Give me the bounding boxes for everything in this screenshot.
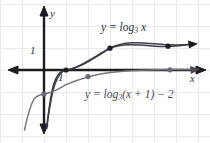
curve-point-parent [165,44,170,49]
curve-parent-log3x [47,40,198,128]
y-axis-label: y [50,8,55,19]
curve-label-transformed-eq: = log [90,88,118,100]
y-axis-tick-label-1: 1 [30,45,36,56]
curve-arrow-parent-right [188,40,198,48]
x-axis-tick-label-1: 1 [58,72,64,83]
y-axis-arrow-top [40,6,48,16]
curve-point-transformed [85,74,90,79]
x-axis-label: x [190,74,195,85]
x-axis-arrow-left [8,66,18,74]
curve-label-parent: y = log3 x [101,22,146,35]
curve-point-transformed [167,67,172,72]
curve-label-transformed-arg: (x + 1) − 2 [122,88,173,100]
curve-point-transformed [41,91,46,96]
logarithm-graph-figure: y x 1 1 y = log3 x y = log3(x + 1) − 2 [0,0,210,143]
curve-label-transformed: y = log3(x + 1) − 2 [85,89,174,102]
curve-path-parent [47,43,191,129]
curve-label-parent-eq: = log [106,21,134,33]
curve-path-parent-smooth [47,44,191,128]
curve-label-parent-arg: x [138,21,146,33]
curve-point-parent [107,46,112,51]
curve-point-parent [63,67,68,72]
